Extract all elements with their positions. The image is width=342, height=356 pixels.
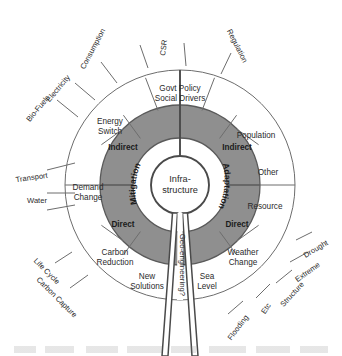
tick-regulation	[221, 53, 231, 74]
tick-bio-fuels	[57, 100, 78, 117]
external-label-etc: Etc	[259, 301, 273, 315]
tick-consumption	[101, 62, 117, 83]
core-label-line2: structure	[162, 185, 198, 195]
external-label-electricity: Electricity	[44, 73, 72, 104]
band-label-adaptation-direct: Direct	[225, 220, 248, 229]
tick-carbon-capture	[70, 275, 88, 288]
outer-label-resource: Resource	[247, 202, 282, 211]
outer-label-demand-change-line1: Demand	[73, 183, 104, 192]
external-label-csr: CSR	[158, 39, 169, 57]
external-label-water: Water	[27, 196, 47, 205]
tick-structure	[276, 270, 292, 283]
tick-csr-left	[140, 45, 148, 68]
outer-label-other: Other	[258, 168, 279, 177]
outer-label-new-solutions-line2: Solutions	[130, 282, 164, 291]
outer-label-energy-switch-line2: Switch	[98, 127, 123, 136]
external-label-extreme: Extreme	[293, 260, 321, 284]
infrastructure-wheel-diagram: Infra- structure Mitigation Adaptation G…	[0, 0, 342, 356]
outer-label-weather-change-line2: Change	[229, 258, 258, 267]
band-label-adaptation-indirect: Indirect	[222, 143, 252, 152]
outer-label-govt-policy-line2: Social Drivers	[155, 94, 206, 103]
outer-label-carbon-reduction-line1: Carbon	[102, 248, 129, 257]
core-label-line1: Infra-	[169, 174, 190, 184]
band-label-mitigation-indirect: Indirect	[108, 143, 138, 152]
outer-label-weather-change-line1: Weather	[228, 248, 259, 257]
external-label-structure: Structure	[278, 280, 306, 309]
band-label-mitigation-direct: Direct	[111, 220, 134, 229]
external-label-transport: Transport	[15, 171, 49, 185]
outer-label-govt-policy-line1: Govt Policy	[159, 84, 201, 93]
tick-electricity	[75, 83, 95, 100]
tick-etc	[256, 284, 270, 298]
outer-label-sea-level-line2: Level	[197, 282, 217, 291]
tick-csr-right	[184, 43, 186, 66]
outer-label-new-solutions-line1: New	[139, 272, 155, 281]
tick-life-cycle	[55, 252, 72, 263]
outer-label-energy-switch-line1: Energy	[97, 117, 124, 126]
caption-placeholder-strip	[14, 346, 328, 353]
geo-engineering-label: Geo-engineering?	[178, 234, 187, 297]
tick-flooding	[228, 301, 243, 314]
external-label-drought: Drought	[302, 238, 331, 260]
external-label-flooding: Flooding	[226, 313, 251, 342]
wheel-svg: Infra- structure Mitigation Adaptation G…	[0, 0, 342, 356]
outer-label-carbon-reduction-line2: Reduction	[97, 258, 134, 267]
outer-label-sea-level-line1: Sea	[200, 272, 215, 281]
outer-label-population: Population	[237, 131, 276, 140]
outer-label-demand-change-line2: Change	[74, 193, 103, 202]
tick-drought	[296, 232, 312, 240]
